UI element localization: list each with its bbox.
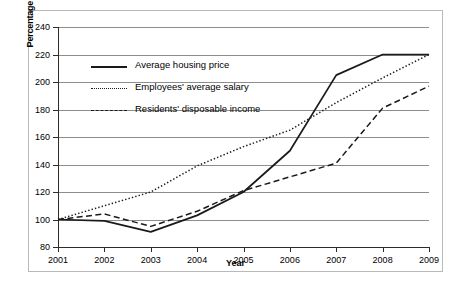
y-axis-tick-label: 80: [40, 243, 50, 252]
legend-item-employees-average-salary: Employees' average salary: [91, 78, 301, 100]
x-axis-tick: [197, 247, 198, 252]
x-axis-tick: [290, 247, 291, 252]
x-axis-tick: [429, 247, 430, 252]
y-axis-tick-label: 200: [35, 78, 50, 87]
y-axis-tick-label: 240: [35, 23, 50, 32]
legend-item-residents-disposable-income: Residents' disposable income: [91, 100, 301, 122]
x-axis-tick: [104, 247, 105, 252]
legend-item-average-housing-price: Average housing price: [91, 56, 301, 78]
x-axis-title: Year: [29, 258, 442, 268]
legend-label-1: Employees' average salary: [135, 81, 249, 92]
y-axis-tick-label: 160: [35, 133, 50, 142]
y-axis-tick-label: 220: [35, 50, 50, 59]
legend-swatch-dotted-icon: [91, 88, 127, 89]
y-axis-tick-label: 100: [35, 215, 50, 224]
x-axis-tick: [151, 247, 152, 252]
x-axis-tick: [383, 247, 384, 252]
x-axis-tick: [336, 247, 337, 252]
chart-figure: Percentage of 2001 value 801001201401601…: [28, 10, 443, 272]
x-axis-title-label: Year: [226, 258, 245, 268]
y-axis-tick-label: 180: [35, 105, 50, 114]
y-axis-tick-label: 120: [35, 188, 50, 197]
chart-legend: Average housing price Employees' average…: [91, 56, 301, 122]
legend-swatch-dashed-icon: [91, 110, 127, 111]
legend-label-2: Residents' disposable income: [135, 103, 260, 114]
legend-label-0: Average housing price: [135, 59, 229, 70]
y-axis-tick-label: 140: [35, 160, 50, 169]
y-axis-title: Percentage of 2001 value: [25, 0, 35, 71]
legend-swatch-solid-icon: [91, 66, 127, 68]
y-axis-title-label: Percentage of 2001 value: [25, 0, 35, 71]
x-axis-tick: [244, 247, 245, 252]
x-axis-tick: [58, 247, 59, 252]
